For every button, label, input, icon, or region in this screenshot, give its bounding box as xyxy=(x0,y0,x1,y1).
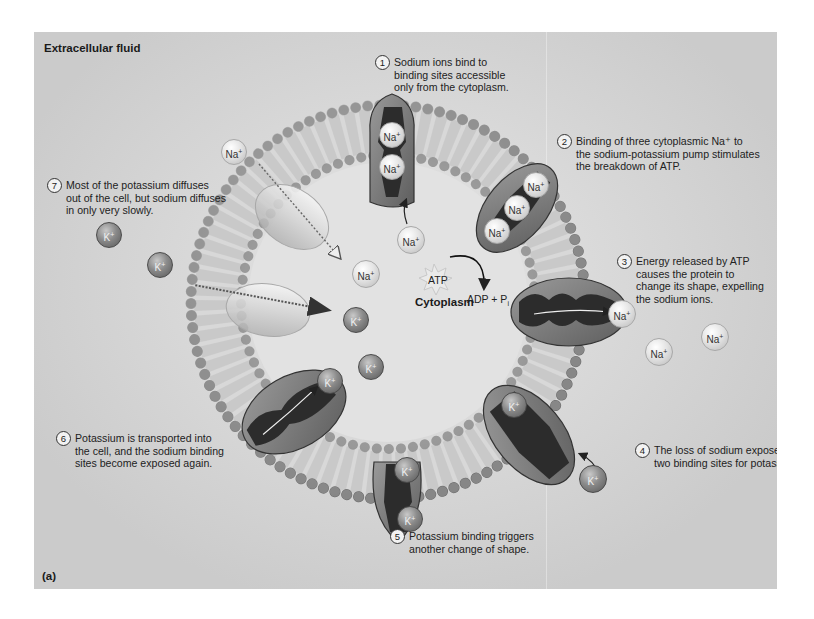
potassium-ion-pump4: K+ xyxy=(501,392,527,418)
step-number: 5 xyxy=(390,529,405,544)
step-text: The loss of sodium exposes two binding s… xyxy=(654,444,777,469)
ion-symbol: Na xyxy=(707,334,720,345)
ion-charge: + xyxy=(663,348,667,355)
ion-charge: + xyxy=(408,466,412,473)
ion-charge: + xyxy=(719,333,723,340)
cytoplasm-label: Cytoplasm xyxy=(415,296,474,308)
step-number: 2 xyxy=(557,134,572,149)
ion-charge: + xyxy=(396,131,400,138)
ion-symbol: Na xyxy=(528,182,541,193)
ion-charge: + xyxy=(396,163,400,170)
ion-charge: + xyxy=(372,363,376,370)
sodium-ion-pump1-a: Na+ xyxy=(379,122,405,148)
ion-symbol: Na xyxy=(614,311,627,322)
sodium-ion-pump2-a: Na+ xyxy=(523,172,549,198)
step-text: Potassium binding triggers another chang… xyxy=(409,530,590,555)
figure-panel: Extracellular fluid Cytoplasm (a) 1 Sodi… xyxy=(34,32,777,589)
potassium-ion-pump5-b: K+ xyxy=(397,506,423,532)
ion-symbol: Na xyxy=(489,228,502,239)
sodium-ion-pump2-b: Na+ xyxy=(504,195,530,221)
potassium-ion-extracellular-2: K+ xyxy=(147,252,173,278)
sodium-ion-pump1-b: Na+ xyxy=(379,154,405,180)
ion-charge: + xyxy=(357,316,361,323)
extracellular-fluid-label: Extracellular fluid xyxy=(44,42,141,54)
step-number: 1 xyxy=(375,55,390,70)
step-4: 4 The loss of sodium exposes two binding… xyxy=(635,444,777,469)
potassium-ion-pump6: K+ xyxy=(317,368,343,394)
sodium-ion-cytoplasm: Na+ xyxy=(352,260,380,288)
potassium-ion-extracellular-1: K+ xyxy=(96,222,122,248)
atp-label: ATP xyxy=(428,274,448,286)
ion-symbol: Na xyxy=(358,271,371,282)
step-text: Energy released by ATP causes the protei… xyxy=(636,255,777,305)
step-6: 6 Potassium is transported into the cell… xyxy=(56,432,256,470)
ion-symbol: Na xyxy=(384,164,397,175)
step-7: 7 Most of the potassium diffuses out of … xyxy=(47,179,267,217)
step-number: 6 xyxy=(56,431,71,446)
potassium-ion-cytoplasm-2: K+ xyxy=(358,354,384,380)
step-number: 3 xyxy=(617,254,632,269)
sodium-ion-expelled: Na+ xyxy=(608,300,636,328)
potassium-ion-extracellular-3: K+ xyxy=(579,465,607,493)
ion-charge: + xyxy=(110,231,114,238)
pump-step-1 xyxy=(370,94,414,207)
potassium-ion-pump5-a: K+ xyxy=(394,457,420,483)
ion-charge: + xyxy=(415,236,419,243)
ion-symbol: Na xyxy=(384,132,397,143)
step-number: 7 xyxy=(47,178,62,193)
step-text: Binding of three cytoplasmic Na⁺ to the … xyxy=(576,135,777,173)
ion-charge: + xyxy=(521,204,525,211)
ion-charge: + xyxy=(161,261,165,268)
adp-pi-label: ADP + Pi xyxy=(467,293,509,307)
step-text: Most of the potassium diffuses out of th… xyxy=(66,179,267,217)
sodium-ion-pump2-c: Na+ xyxy=(484,218,510,244)
ion-charge: + xyxy=(238,148,242,155)
step-5: 5 Potassium binding triggers another cha… xyxy=(390,530,590,555)
ion-charge: + xyxy=(501,227,505,234)
potassium-ion-cytoplasm-1: K+ xyxy=(343,307,369,333)
ion-charge: + xyxy=(594,475,598,482)
ion-symbol: Na xyxy=(226,149,239,160)
pi-subscript: i xyxy=(507,300,509,307)
sodium-ion-cytoplasm-entering: Na+ xyxy=(397,226,425,254)
step-2: 2 Binding of three cytoplasmic Na⁺ to th… xyxy=(557,135,777,173)
ion-charge: + xyxy=(626,310,630,317)
ion-charge: + xyxy=(331,377,335,384)
step-3: 3 Energy released by ATP causes the prot… xyxy=(617,255,777,305)
ion-symbol: Na xyxy=(403,237,416,248)
sodium-ion-extracellular-3: Na+ xyxy=(701,323,729,351)
ion-charge: + xyxy=(540,181,544,188)
ion-symbol: Na xyxy=(651,349,664,360)
step-text: Potassium is transported into the cell, … xyxy=(75,432,256,470)
sodium-ion-extracellular: Na+ xyxy=(221,139,247,165)
ion-symbol: Na xyxy=(509,205,522,216)
membrane-diagram xyxy=(34,32,777,589)
step-text: Sodium ions bind to binding sites access… xyxy=(394,56,565,94)
step-number: 4 xyxy=(635,443,650,458)
adp-pi-text: ADP + P xyxy=(467,293,507,305)
sodium-ion-extracellular-2: Na+ xyxy=(645,338,673,366)
ion-charge: + xyxy=(411,515,415,522)
ion-charge: + xyxy=(515,401,519,408)
panel-label: (a) xyxy=(42,570,56,582)
ion-charge: + xyxy=(370,270,374,277)
step-1: 1 Sodium ions bind to binding sites acce… xyxy=(375,56,565,94)
